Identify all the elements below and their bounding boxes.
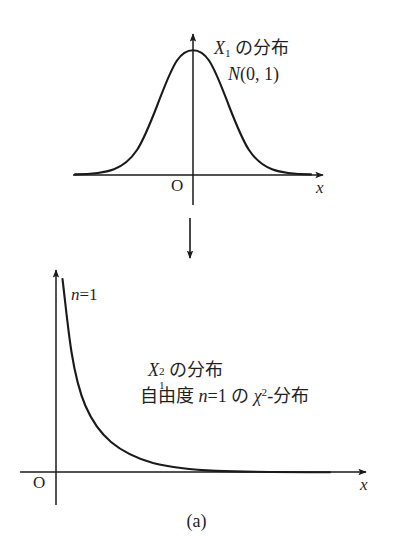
bottom-label-suffix: の分布 bbox=[165, 360, 224, 380]
bottom-curve-label-var: n bbox=[71, 285, 80, 304]
figure-root: X1 の分布 N(0, 1) O x n=1 X21 の分布 自由度 n=1 の… bbox=[0, 0, 393, 560]
bottom-label-chi-symbol: χ bbox=[254, 386, 262, 406]
bottom-label-dof-eq: =1 bbox=[208, 386, 227, 406]
bottom-label-dof-prefix: 自由度 bbox=[140, 386, 199, 406]
figure-canvas bbox=[0, 0, 393, 560]
bottom-chart-curve-label: n=1 bbox=[71, 285, 98, 305]
bottom-label-variable: X bbox=[148, 360, 159, 380]
bottom-label-dof-var: n bbox=[199, 386, 208, 406]
top-label-normal-name: N bbox=[228, 64, 240, 84]
top-chart-normal-label: N(0, 1) bbox=[228, 64, 279, 85]
bottom-label-dof-mid: の bbox=[227, 386, 254, 406]
top-label-variable: X bbox=[214, 38, 225, 58]
figure-caption: (a) bbox=[0, 511, 393, 532]
top-chart-origin-label: O bbox=[171, 176, 183, 196]
bottom-label-chi-suffix: -分布 bbox=[267, 386, 309, 406]
bottom-chart-distribution-label: X21 の分布 bbox=[148, 360, 223, 381]
top-label-suffix: の分布 bbox=[231, 38, 290, 58]
bottom-chart-origin-label: O bbox=[33, 473, 45, 493]
bottom-chart-x-axis-label: x bbox=[360, 475, 368, 495]
top-chart-x-axis-label: x bbox=[316, 178, 324, 198]
bottom-curve-label-eq: =1 bbox=[80, 285, 98, 304]
top-chart-distribution-label: X1 の分布 bbox=[214, 38, 289, 60]
bottom-label-superscript: 2 bbox=[159, 365, 165, 378]
bottom-chart-chisquare-label: 自由度 n=1 の χ2-分布 bbox=[140, 386, 309, 407]
top-label-normal-args: (0, 1) bbox=[240, 64, 279, 84]
